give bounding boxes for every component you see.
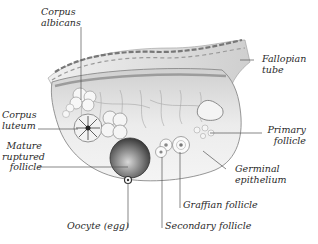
label-germinal-epithelium: Germinal epithelium [235, 164, 287, 185]
corpus-luteum-shape [74, 114, 102, 142]
label-fallopian-tube: Fallopian tube [262, 54, 306, 75]
label-secondary-follicle: Secondary follicle [165, 221, 251, 232]
label-mature-ruptured-follicle: Mature ruptured follicle [2, 141, 42, 173]
label-graafian-follicle: Graffian follicle [183, 200, 258, 211]
label-corpus-albicans: Corpus albicans [41, 7, 81, 28]
graafian-follicle-shape [173, 137, 190, 154]
label-oocyte: Oocyte (egg) [67, 221, 129, 232]
ovary-illustration [0, 0, 318, 244]
label-corpus-luteum: Corpus luteum [2, 110, 37, 131]
label-primary-follicle: Primary follicle [262, 125, 306, 146]
